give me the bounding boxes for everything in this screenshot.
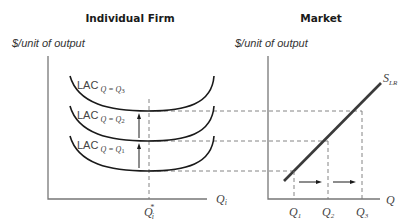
market-x-label: Q bbox=[386, 193, 395, 207]
lac-label-q1: LACQ = Q1 bbox=[77, 139, 125, 155]
q3-label: Q3 bbox=[356, 205, 369, 220]
firm-axes bbox=[48, 56, 207, 199]
supply-curve-lr bbox=[284, 83, 381, 181]
lac-label-q3: LACQ = Q3 bbox=[77, 79, 125, 95]
right-arrow-head-1 bbox=[316, 180, 322, 184]
firm-title: Individual Firm bbox=[85, 12, 174, 24]
market-y-label: $/unit of output bbox=[234, 37, 309, 49]
market-title: Market bbox=[300, 12, 342, 24]
up-arrow-head-1 bbox=[137, 143, 141, 149]
lac-label-q2: LACQ = Q2 bbox=[77, 109, 125, 125]
q-star-label: Qi* bbox=[144, 203, 154, 221]
firm-x-label: Qi bbox=[216, 192, 227, 207]
market-axes bbox=[268, 56, 380, 199]
right-arrow-head-2 bbox=[350, 180, 356, 184]
q1-label: Q1 bbox=[289, 205, 301, 220]
lr-supply-diagram: Individual Firm Market $/unit of output … bbox=[0, 0, 416, 224]
up-arrow-head-2 bbox=[137, 113, 141, 119]
firm-y-label: $/unit of output bbox=[11, 37, 86, 49]
supply-label: SLR bbox=[383, 71, 398, 87]
q2-label: Q2 bbox=[322, 205, 335, 220]
